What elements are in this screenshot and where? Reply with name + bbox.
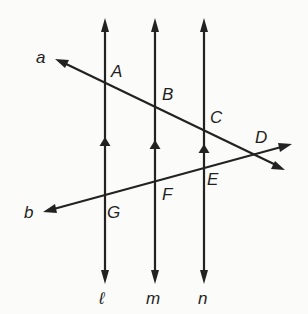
line-label-b: b [24,203,33,222]
line-a [55,59,285,170]
arrowhead-icon [55,59,69,68]
arrowhead-icon [278,143,292,152]
line-m [150,18,161,284]
line-label-n: n [198,289,207,308]
parallel-mark-icon [100,137,111,146]
arrowhead-icon [101,270,109,284]
point-label-g: G [107,203,120,222]
geometry-diagram: A B C D E F G a b ℓ m n [0,0,308,314]
point-label-b: B [162,85,173,104]
line-label-m: m [146,289,160,308]
arrowhead-icon [200,270,208,284]
parallel-mark-icon [150,140,161,149]
line-label-a: a [36,48,45,67]
arrowhead-icon [43,204,57,213]
line-n [199,18,210,284]
point-label-e: E [207,170,219,189]
point-label-d: D [255,128,267,147]
arrowhead-icon [271,161,285,170]
point-label-f: F [162,185,174,204]
arrowhead-icon [101,18,109,32]
line-label-l: ℓ [98,289,105,308]
arrowhead-icon [151,18,159,32]
point-label-c: C [210,108,223,127]
parallel-mark-icon [199,144,210,153]
arrowhead-icon [200,18,208,32]
point-label-a: A [110,62,122,81]
arrowhead-icon [151,270,159,284]
line-l [100,18,111,284]
